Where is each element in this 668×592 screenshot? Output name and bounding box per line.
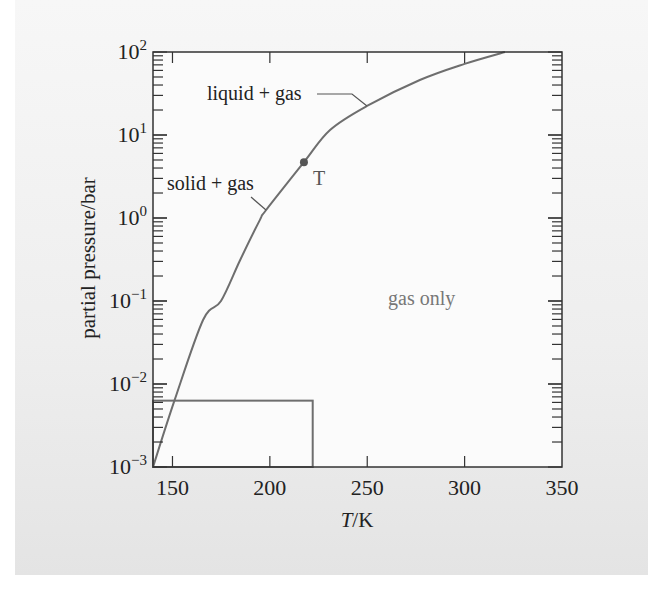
y-tick-label: 10−3 xyxy=(109,452,147,479)
y-tick-label: 100 xyxy=(118,203,148,230)
y-axis-title: partial pressure/bar xyxy=(76,177,100,339)
y-tick-label: 101 xyxy=(118,120,148,147)
plot-area xyxy=(153,52,562,467)
x-tick-label: 200 xyxy=(253,475,286,500)
triple-point-marker xyxy=(300,158,308,166)
x-axis-title: T/K xyxy=(341,508,374,532)
y-tick-label: 10−1 xyxy=(109,286,147,313)
x-tick-label: 350 xyxy=(546,475,579,500)
phase-diagram-chart: 10−310−210−1100101102 150200250300350 li… xyxy=(0,0,668,592)
y-tick-labels: 10−310−210−1100101102 xyxy=(109,37,147,479)
x-tick-labels: 150200250300350 xyxy=(156,475,579,500)
x-tick-label: 300 xyxy=(448,475,481,500)
x-tick-label: 250 xyxy=(351,475,384,500)
x-tick-label: 150 xyxy=(156,475,189,500)
label-liquid-gas: liquid + gas xyxy=(207,82,302,105)
label-triple-point: T xyxy=(313,167,325,189)
y-tick-label: 10−2 xyxy=(109,369,147,396)
y-tick-label: 102 xyxy=(118,37,148,64)
label-solid-gas: solid + gas xyxy=(167,172,254,195)
label-gas-only: gas only xyxy=(388,287,455,310)
